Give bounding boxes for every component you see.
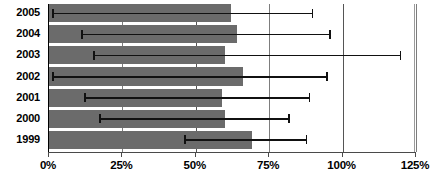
x-tick-label-100: 100% xyxy=(327,160,356,172)
y-tick-label-2000: 2000 xyxy=(16,113,40,124)
error-bar-line xyxy=(52,76,328,78)
x-tick-label-0: 0% xyxy=(40,160,56,172)
y-tick-label-1999: 1999 xyxy=(16,134,40,145)
error-bar-1999 xyxy=(184,135,307,144)
error-bar-line xyxy=(52,13,313,15)
x-tick-mark-100 xyxy=(342,152,343,157)
y-axis: 2005200420032002200120001999 xyxy=(0,0,44,152)
error-bar-line xyxy=(81,34,331,36)
y-tick-label-2003: 2003 xyxy=(16,49,40,60)
error-bar-line xyxy=(84,97,310,99)
x-tick-label-125: 125% xyxy=(401,160,430,172)
error-bar-2002 xyxy=(52,72,328,81)
error-bar-cap-high xyxy=(400,51,402,60)
bar-row-2001 xyxy=(49,89,414,107)
error-bar-cap-low xyxy=(184,135,186,144)
error-bar-cap-high xyxy=(309,93,311,102)
bar-row-2002 xyxy=(49,67,414,85)
error-bar-cap-low xyxy=(84,93,86,102)
error-bar-cap-low xyxy=(52,9,54,18)
error-bar-cap-low xyxy=(93,51,95,60)
gridline-125 xyxy=(416,4,417,152)
x-tick-mark-25 xyxy=(121,152,122,157)
error-bar-2003 xyxy=(93,51,401,60)
error-bar-2000 xyxy=(99,114,290,123)
bar-row-2005 xyxy=(49,4,414,22)
x-tick-label-75: 75% xyxy=(257,160,279,172)
error-bar-2005 xyxy=(52,9,313,18)
x-tick-mark-125 xyxy=(415,152,416,157)
bar-row-2004 xyxy=(49,25,414,43)
error-bar-cap-high xyxy=(326,72,328,81)
x-tick-label-50: 50% xyxy=(184,160,206,172)
error-bar-2004 xyxy=(81,30,331,39)
error-bar-cap-low xyxy=(52,72,54,81)
y-tick-label-2004: 2004 xyxy=(16,28,40,39)
plot-area xyxy=(48,4,415,152)
y-tick-label-2005: 2005 xyxy=(16,7,40,18)
error-bar-line xyxy=(184,139,307,141)
error-bar-cap-high xyxy=(306,135,308,144)
bar-row-2003 xyxy=(49,46,414,64)
y-tick-label-2001: 2001 xyxy=(16,92,40,103)
error-bar-2001 xyxy=(84,93,310,102)
x-tick-mark-0 xyxy=(48,152,49,157)
x-tick-mark-75 xyxy=(268,152,269,157)
error-bar-cap-low xyxy=(81,30,83,39)
error-bar-line xyxy=(93,55,401,57)
bar-row-2000 xyxy=(49,110,414,128)
error-bar-cap-low xyxy=(99,114,101,123)
error-bar-cap-high xyxy=(288,114,290,123)
error-bar-cap-high xyxy=(329,30,331,39)
x-tick-mark-50 xyxy=(195,152,196,157)
error-bar-line xyxy=(99,118,290,120)
x-tick-label-25: 25% xyxy=(110,160,132,172)
bar-chart: 2005200420032002200120001999 0%25%50%75%… xyxy=(0,0,445,187)
error-bar-cap-high xyxy=(312,9,314,18)
y-tick-label-2002: 2002 xyxy=(16,71,40,82)
x-axis-line xyxy=(48,152,415,153)
bar-row-1999 xyxy=(49,131,414,149)
